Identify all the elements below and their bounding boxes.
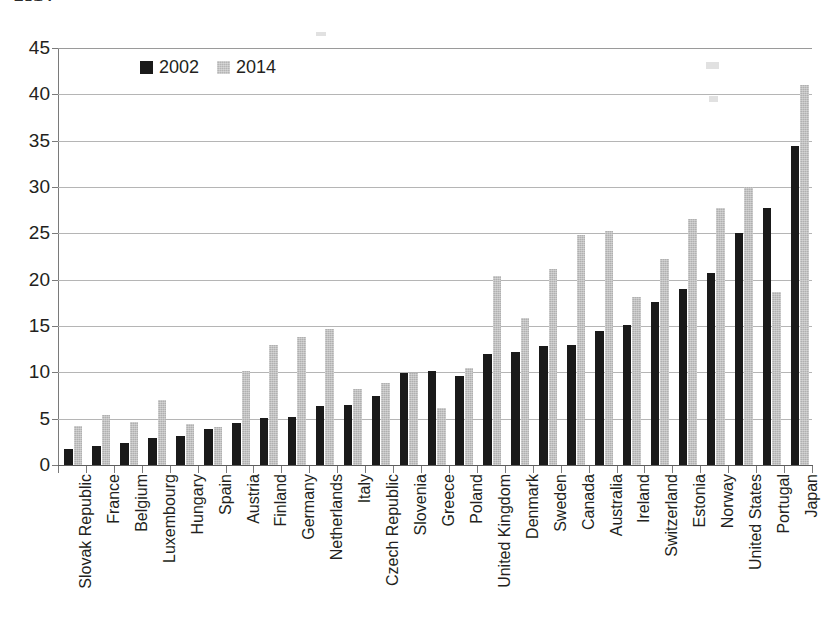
x-axis-category-label: Portugal — [776, 474, 792, 534]
x-axis-category-label-text: Greece — [441, 474, 457, 526]
bar-2014 — [577, 235, 586, 465]
bar-group — [763, 48, 781, 465]
bar-2014 — [605, 231, 614, 465]
bar-group — [344, 48, 362, 465]
bar-group — [120, 48, 138, 465]
bar-2014 — [74, 426, 83, 465]
x-axis-category-label: Netherlands — [329, 474, 345, 560]
legend-label-2002: 2002 — [159, 58, 199, 76]
bar-2014 — [493, 276, 502, 465]
bar-2002 — [120, 443, 129, 465]
x-axis-category-label-text: Czech Republic — [385, 474, 401, 586]
x-axis-category-label: Sweden — [553, 474, 569, 532]
bar-group — [791, 48, 809, 465]
y-axis-tick-label: 30 — [6, 177, 50, 196]
x-axis-category-label-text: Estonia — [692, 474, 708, 527]
x-axis-category-label: Finland — [273, 474, 289, 526]
y-axis-tick-label: 45 — [6, 38, 50, 57]
bar-2014 — [409, 373, 418, 465]
x-axis-category-label: Canada — [581, 474, 597, 530]
x-axis-category-label: United States — [748, 474, 764, 570]
bar-group — [232, 48, 250, 465]
bar-2002 — [651, 302, 660, 465]
bar-2014 — [521, 318, 530, 465]
x-axis-category-label-text: Canada — [581, 474, 597, 530]
bar-group — [735, 48, 753, 465]
x-axis-category-label-text: Poland — [469, 474, 485, 524]
x-axis-category-label: Estonia — [692, 474, 708, 527]
x-axis-category-label: Spain — [218, 474, 234, 515]
bar-2002 — [455, 376, 464, 465]
x-axis-category-label-text: Netherlands — [329, 474, 345, 560]
y-axis-tick-label: 25 — [6, 223, 50, 242]
x-axis-category-label: United Kingdom — [497, 474, 513, 588]
bar-2014 — [772, 292, 781, 465]
x-axis-category-label: Greece — [441, 474, 457, 526]
bar-2014 — [549, 269, 558, 465]
bar-2002 — [232, 423, 241, 465]
bar-2002 — [176, 436, 185, 465]
x-axis-category-label-text: Australia — [609, 474, 625, 536]
bar-group — [400, 48, 418, 465]
x-axis-category-label-text: Slovak Republic — [78, 474, 94, 589]
bar-group — [92, 48, 110, 465]
plot-area — [58, 48, 812, 465]
bar-group — [316, 48, 334, 465]
x-axis-category-label: Hungary — [190, 474, 206, 534]
bar-group — [567, 48, 585, 465]
x-axis-category-label-text: United States — [748, 474, 764, 570]
x-axis-category-label-text: Ireland — [636, 474, 652, 523]
bar-group — [288, 48, 306, 465]
x-axis-category-label: Japan — [804, 474, 820, 518]
bar-group — [64, 48, 82, 465]
bar-2014 — [214, 427, 223, 465]
bar-2002 — [400, 373, 409, 465]
bar-2002 — [539, 346, 548, 465]
x-axis-category-label-text: Austria — [246, 474, 262, 524]
bar-2014 — [158, 400, 167, 465]
bar-2014 — [660, 259, 669, 465]
bar-2002 — [511, 352, 520, 465]
bar-2014 — [437, 408, 446, 465]
legend-entry-2002: 2002 — [140, 58, 199, 76]
bar-group — [204, 48, 222, 465]
x-axis-category-label: Germany — [301, 474, 317, 540]
bar-2002 — [735, 233, 744, 465]
bar-2002 — [372, 396, 381, 465]
bar-group — [483, 48, 501, 465]
x-axis-category-label: Austria — [246, 474, 262, 524]
y-axis-tick-label: 35 — [6, 131, 50, 150]
x-axis-category-label: Poland — [469, 474, 485, 524]
bar-group — [679, 48, 697, 465]
bar-2002 — [595, 331, 604, 465]
bar-2014 — [688, 219, 697, 465]
bar-2002 — [707, 273, 716, 465]
bar-group — [148, 48, 166, 465]
x-axis-category-label: Italy — [357, 474, 373, 503]
bar-group — [260, 48, 278, 465]
x-axis-category-label-text: Japan — [804, 474, 820, 518]
x-axis-category-label-text: Sweden — [553, 474, 569, 532]
x-axis-category-label: Slovak Republic — [78, 474, 94, 589]
bar-2002 — [428, 371, 437, 465]
x-axis-category-label-text: Finland — [273, 474, 289, 526]
bar-group — [623, 48, 641, 465]
bar-2014 — [325, 329, 334, 465]
x-axis-category-label-text: Norway — [720, 474, 736, 528]
bar-chart: 2014 051015202530354045 Slovak RepublicF… — [0, 0, 825, 635]
x-axis-category-label-text: Spain — [218, 474, 234, 515]
x-axis-category-label-text: Germany — [301, 474, 317, 540]
y-axis-tick-label: 20 — [6, 270, 50, 289]
bar-2014 — [242, 371, 251, 465]
legend-swatch-2014-icon — [217, 61, 230, 74]
x-axis-category-label: Slovenia — [413, 474, 429, 535]
y-axis-tick-label: 5 — [6, 409, 50, 428]
bar-2002 — [483, 354, 492, 465]
legend-swatch-2002-icon — [140, 61, 153, 74]
bar-2002 — [260, 418, 269, 465]
bar-2002 — [316, 406, 325, 465]
bar-2002 — [791, 146, 800, 465]
bar-2002 — [567, 345, 576, 465]
bar-2014 — [800, 85, 809, 465]
y-axis-tick-label: 40 — [6, 84, 50, 103]
